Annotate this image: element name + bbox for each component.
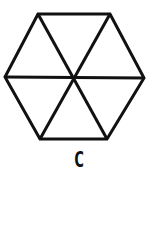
figure-label: C	[16, 148, 142, 172]
diagonal-3	[5, 77, 144, 78]
